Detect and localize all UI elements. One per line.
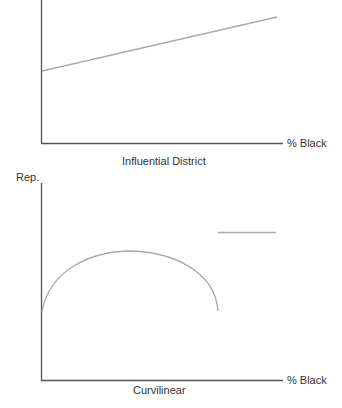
- bottom-chart-axes: [41, 183, 283, 381]
- top-chart-axes: [41, 0, 283, 144]
- bottom-x-axis-label: % Black: [287, 375, 327, 386]
- top-x-axis-label: % Black: [287, 138, 327, 149]
- bottom-y-axis-label: Rep.: [16, 172, 39, 183]
- diagram-canvas: [0, 0, 342, 408]
- top-chart-caption: Influential District: [122, 156, 206, 167]
- curvilinear-arc: [42, 251, 218, 311]
- bottom-chart-caption: Curvilinear: [133, 385, 186, 396]
- top-linear-trend-line: [42, 17, 277, 71]
- figure: % Black Influential District Rep. % Blac…: [0, 0, 342, 408]
